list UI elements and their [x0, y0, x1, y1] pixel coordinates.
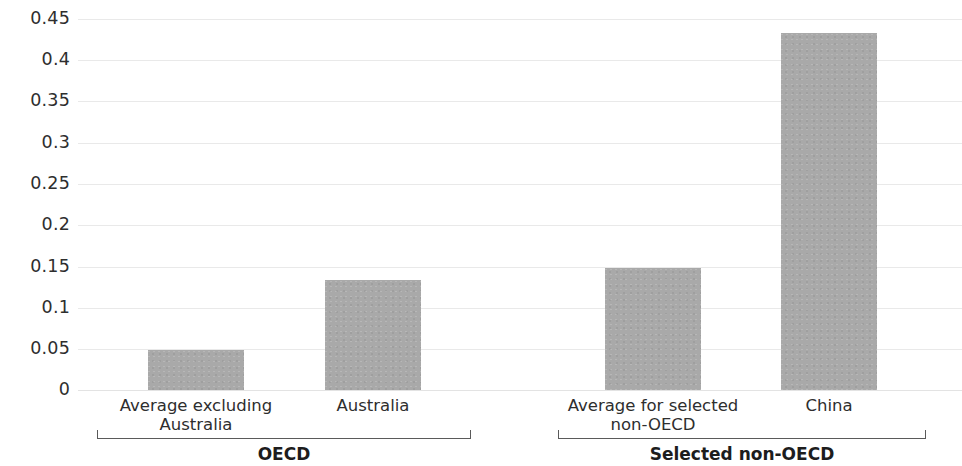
bar-average-excluding-australia	[148, 350, 244, 390]
y-axis-tick-label: 0.1	[4, 299, 70, 317]
bar-china	[781, 33, 877, 390]
group-bracket-oecd	[97, 430, 471, 439]
y-axis-tick-label: 0.3	[4, 134, 70, 152]
y-axis-tick-label: 0	[4, 381, 70, 399]
y-axis-tick-label: 0.25	[4, 175, 70, 193]
category-label-australia: Australia	[308, 396, 438, 415]
y-axis-tick-label: 0.05	[4, 340, 70, 358]
y-axis-tick-label: 0.15	[4, 258, 70, 276]
gridline-baseline-0	[78, 390, 962, 391]
category-label-china: China	[764, 396, 894, 415]
bar-average-for-selected-non-oecd	[605, 268, 701, 390]
gridline-0.45	[78, 19, 962, 20]
group-label-oecd: OECD	[97, 446, 471, 463]
bar-australia	[325, 280, 421, 390]
y-axis-tick-label: 0.45	[4, 10, 70, 28]
group-bracket-selected-non-oecd	[558, 430, 926, 439]
bar-chart: 0.45 0.4 0.35 0.3 0.25 0.2 0.15 0.1 0.05…	[0, 0, 962, 466]
y-axis-tick-label: 0.4	[4, 51, 70, 69]
category-label-average-for-selected-non-oecd: Average for selected non-OECD	[559, 396, 747, 434]
y-axis-tick-label: 0.2	[4, 216, 70, 234]
y-axis-tick-label: 0.35	[4, 92, 70, 110]
group-label-selected-non-oecd: Selected non-OECD	[558, 446, 926, 463]
category-label-average-excluding-australia: Average excluding Australia	[102, 396, 290, 434]
